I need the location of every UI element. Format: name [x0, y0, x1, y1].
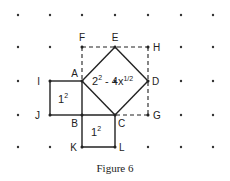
point-label-h: H	[153, 42, 160, 53]
grid-dot	[212, 80, 214, 82]
vertex-h	[147, 46, 150, 49]
grid-dot	[147, 146, 149, 148]
vertex-a	[81, 80, 84, 83]
point-labels: FEHIADJBCGKL	[35, 32, 161, 153]
grid-dot	[147, 14, 149, 16]
vertex-d	[147, 80, 150, 83]
point-label-c: C	[118, 118, 125, 129]
area-label-tilted-square: 22 - 4x1/2	[92, 74, 133, 87]
vertex-f	[81, 46, 84, 49]
point-label-e: E	[112, 32, 119, 43]
grid-dot	[17, 114, 19, 116]
point-label-g: G	[153, 110, 161, 121]
grid-dot	[180, 146, 182, 148]
point-label-d: D	[152, 76, 159, 87]
grid-dot	[17, 14, 19, 16]
grid-dot	[81, 14, 83, 16]
vertex-k	[81, 146, 84, 149]
grid-dot	[17, 46, 19, 48]
grid-dot	[212, 114, 214, 116]
vertex-e	[114, 46, 117, 49]
grid-dot	[49, 14, 51, 16]
grid-dot	[212, 146, 214, 148]
vertex-b	[81, 114, 84, 117]
figure-caption: Figure 6	[97, 162, 134, 174]
point-label-f: F	[79, 32, 85, 43]
grid-dot	[17, 80, 19, 82]
vertex-c	[114, 114, 117, 117]
grid-dot	[17, 146, 19, 148]
vertex-j	[49, 114, 52, 117]
grid-dot	[212, 14, 214, 16]
grid-dot	[180, 14, 182, 16]
grid-dot	[49, 146, 51, 148]
area-label-upper-left-square: 12	[58, 92, 68, 105]
vertex-i	[49, 80, 52, 83]
grid-dot	[49, 46, 51, 48]
vertex-g	[147, 114, 150, 117]
point-label-j: J	[35, 110, 40, 121]
vertex-l	[114, 146, 117, 149]
grid-dot	[114, 14, 116, 16]
grid-dot	[180, 114, 182, 116]
point-label-a: A	[71, 68, 78, 79]
point-label-l: L	[119, 142, 125, 153]
point-label-i: I	[37, 76, 40, 87]
point-label-b: B	[71, 118, 78, 129]
grid-dot	[180, 80, 182, 82]
grid-dot	[212, 46, 214, 48]
area-label-lower-square: 12	[91, 125, 101, 138]
figure-6-diagram: FEHIADJBCGKL 12 12 22 - 4x1/2 Figure 6	[0, 0, 230, 181]
grid-dot	[180, 46, 182, 48]
point-label-k: K	[70, 142, 77, 153]
